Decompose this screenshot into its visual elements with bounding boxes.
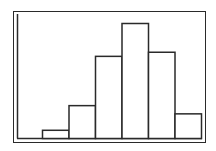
histogram-bar bbox=[96, 56, 123, 138]
bars-group bbox=[43, 24, 202, 139]
histogram-bar bbox=[149, 52, 176, 138]
histogram-bar bbox=[69, 106, 96, 139]
histogram-bar bbox=[175, 114, 202, 139]
histogram-bar bbox=[43, 130, 70, 138]
histogram-chart bbox=[0, 0, 216, 151]
histogram-bar bbox=[122, 24, 149, 139]
